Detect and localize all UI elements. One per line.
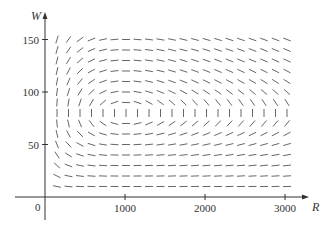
slope-segment	[99, 144, 106, 145]
slope-segment	[157, 144, 164, 145]
slope-segment	[111, 91, 118, 92]
slope-segment	[180, 144, 187, 145]
slope-segment	[169, 80, 176, 82]
y-axis-ticks: 50100150	[23, 34, 49, 151]
slope-segment	[88, 143, 95, 145]
x-tick-label: 1000	[114, 202, 137, 214]
slope-segment	[79, 99, 81, 106]
slope-segment	[169, 70, 176, 72]
slope-segment	[169, 121, 175, 125]
slope-segment	[226, 144, 233, 146]
slope-segment	[249, 165, 256, 166]
slope-segment	[227, 100, 231, 106]
slope-segment	[238, 59, 245, 62]
slope-segment	[100, 80, 107, 82]
slope-segment	[238, 49, 245, 51]
x-tick-label: 3000	[274, 202, 297, 214]
slope-segment	[203, 39, 210, 41]
slope-segment	[249, 49, 256, 52]
slope-segment	[215, 133, 222, 136]
slope-segment	[100, 70, 107, 72]
slope-segment	[203, 133, 210, 136]
slope-segment	[204, 90, 210, 94]
slope-segment	[204, 121, 209, 126]
slope-segment	[88, 165, 95, 166]
y-axis-label: W	[31, 9, 42, 23]
slope-segment	[134, 134, 141, 135]
y-tick-label: 100	[23, 86, 40, 98]
slope-segment	[192, 70, 199, 72]
slope-segment	[203, 59, 210, 61]
slope-segment	[100, 60, 107, 62]
slope-segment	[134, 101, 141, 103]
slope-segment	[180, 80, 187, 83]
slope-segment	[249, 154, 256, 155]
slope-segment	[157, 70, 164, 72]
slope-segment	[215, 49, 222, 51]
slope-segment	[157, 60, 164, 61]
slope-segment	[284, 132, 290, 135]
slope-segment	[215, 90, 221, 94]
slope-segment	[89, 79, 95, 83]
slope-segment	[88, 49, 95, 52]
slope-segment	[56, 67, 58, 74]
slope-segment	[215, 59, 222, 61]
slope-segment	[284, 38, 291, 41]
slope-segment	[285, 121, 290, 127]
slope-segment	[180, 133, 187, 135]
slope-segment	[67, 89, 69, 96]
slope-segment	[111, 101, 118, 103]
slope-segment	[169, 133, 176, 135]
slope-segment	[193, 100, 198, 105]
slope-segment	[215, 38, 222, 40]
slope-segment	[191, 165, 198, 166]
slope-segment	[238, 144, 245, 146]
slope-segment	[272, 154, 279, 155]
slope-segment	[226, 133, 233, 136]
slope-segment	[56, 57, 58, 64]
slope-segment	[180, 60, 187, 62]
slope-segment	[111, 134, 118, 135]
slope-segment	[65, 175, 72, 176]
slope-segment	[272, 165, 279, 166]
slope-segment	[66, 37, 70, 43]
slope-segment	[261, 90, 267, 95]
slope-segment	[249, 132, 255, 135]
slope-segment	[260, 154, 267, 155]
slope-segment	[54, 174, 60, 177]
slope-segment	[77, 68, 82, 73]
slope-segment	[274, 99, 278, 105]
slope-segment	[272, 69, 278, 72]
slope-segment	[203, 70, 210, 73]
slope-segment	[249, 59, 256, 62]
slope-segment	[238, 132, 245, 135]
slope-segment	[215, 144, 222, 146]
slope-segment	[76, 165, 83, 166]
slope-segment	[134, 81, 141, 82]
slope-segment	[67, 78, 70, 85]
slope-segment	[158, 100, 164, 104]
slope-segment	[89, 121, 93, 127]
slope-segment	[111, 60, 118, 61]
y-axis-arrow-icon	[43, 12, 48, 19]
slope-segment	[272, 38, 279, 40]
slope-segment	[157, 39, 164, 40]
slope-segment	[203, 165, 210, 166]
slope-segment	[215, 121, 220, 126]
slope-segment	[284, 59, 291, 62]
slope-segment	[180, 90, 186, 94]
slope-segment	[273, 90, 278, 95]
slope-segment	[67, 68, 70, 74]
slope-segment	[90, 99, 94, 105]
slope-segment	[157, 155, 164, 156]
x-axis-label: R	[311, 200, 320, 214]
slope-segment	[226, 70, 233, 73]
slope-segment	[134, 50, 141, 51]
slope-segment	[260, 165, 267, 166]
slope-segment	[272, 132, 278, 135]
slope-segment	[111, 71, 118, 72]
slope-segment	[134, 60, 141, 61]
slope-segment	[89, 90, 94, 95]
slope-segment	[111, 39, 118, 40]
slope-segment	[145, 70, 152, 71]
